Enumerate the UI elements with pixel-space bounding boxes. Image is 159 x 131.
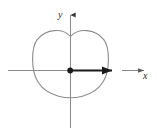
x-axis-label: x	[143, 71, 147, 81]
cardioid-figure: y x	[0, 0, 159, 131]
figure-canvas	[0, 0, 159, 131]
y-axis-label: y	[58, 10, 62, 20]
origin-point-marker	[67, 68, 73, 74]
